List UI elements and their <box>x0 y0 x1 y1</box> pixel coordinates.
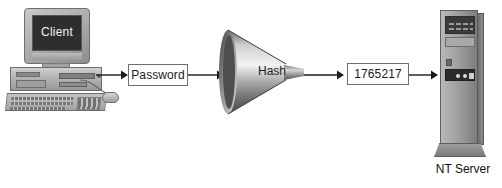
server-floppy-bay <box>445 37 475 47</box>
password-box: Password <box>128 64 188 86</box>
hash-value-box: 1765217 <box>347 63 409 85</box>
client-screen-label: Client <box>33 25 81 39</box>
mouse-icon <box>102 92 119 103</box>
key-row <box>11 97 73 100</box>
arrow-hash-to-value <box>304 66 348 86</box>
server-tower-icon <box>440 10 478 145</box>
case-bay-upper <box>16 72 40 77</box>
hash-funnel: Hash <box>214 26 306 118</box>
server-badge <box>446 59 452 66</box>
monitor-icon: Client <box>24 8 90 64</box>
server-bay-slot <box>449 28 473 30</box>
server-side-panel <box>477 13 484 145</box>
case-bay-lower <box>16 80 46 88</box>
arrow-client-to-password <box>96 66 132 86</box>
monitor-chin <box>32 53 82 60</box>
server-base <box>434 143 486 157</box>
server-control-panel <box>445 69 475 81</box>
server-button <box>463 74 467 78</box>
key-row <box>11 102 73 105</box>
hash-label: Hash <box>258 64 286 78</box>
server-drive-bay <box>445 16 475 34</box>
password-hash-flow-diagram: Client Password <box>0 0 502 188</box>
key-row <box>10 107 65 110</box>
client-computer: Client <box>6 8 116 120</box>
server-button <box>456 74 460 78</box>
monitor-screen: Client <box>32 15 82 51</box>
server-indicator <box>469 73 474 79</box>
nt-server: NT Server <box>434 10 492 185</box>
nt-server-label: NT Server <box>428 162 498 176</box>
server-bay-slot <box>449 23 473 25</box>
